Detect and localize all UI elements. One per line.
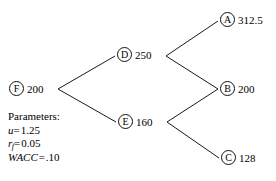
node-letter-f: F — [14, 84, 20, 94]
node-letter-c: C — [225, 153, 232, 163]
tree-node-d: D 250 — [117, 47, 152, 62]
parameters-block: Parameters: u= 1.25 rf= 0.05 WACC = .10 — [8, 110, 60, 164]
node-circle-f: F — [9, 81, 24, 96]
edge-d-to-b — [166, 56, 218, 89]
parameter-u: u= 1.25 — [8, 124, 60, 138]
node-letter-e: E — [122, 117, 128, 127]
node-circle-b: B — [220, 81, 235, 96]
node-circle-c: C — [221, 150, 236, 165]
parameter-u-value: 1.25 — [21, 124, 40, 136]
node-value-a: 312.5 — [238, 15, 263, 26]
edge-d-to-a — [166, 21, 218, 56]
node-value-b: 200 — [238, 84, 255, 95]
node-letter-b: B — [224, 84, 231, 94]
tree-node-a: A 312.5 — [220, 12, 263, 27]
tree-node-f: F 200 — [9, 81, 44, 96]
parameter-rf-operator: = — [14, 137, 20, 149]
parameter-rf: rf= 0.05 — [8, 137, 60, 151]
node-circle-a: A — [220, 12, 235, 27]
parameter-wacc: WACC = .10 — [8, 151, 60, 165]
node-value-e: 160 — [136, 117, 153, 128]
parameter-wacc-value: .10 — [46, 151, 60, 163]
tree-node-c: C 128 — [221, 150, 256, 165]
edge-f-to-d — [58, 56, 115, 89]
node-circle-e: E — [118, 114, 133, 129]
edge-e-to-c — [167, 122, 219, 158]
edge-f-to-e — [58, 89, 116, 122]
tree-node-e: E 160 — [118, 114, 153, 129]
parameter-u-operator: = — [14, 124, 20, 136]
parameter-rf-value: 0.05 — [21, 137, 40, 149]
parameter-wacc-operator: = — [39, 151, 45, 163]
parameter-wacc-symbol: WACC — [8, 151, 38, 163]
node-value-c: 128 — [239, 153, 256, 164]
node-letter-d: D — [121, 50, 128, 60]
edge-e-to-b — [167, 89, 218, 122]
tree-node-b: B 200 — [220, 81, 255, 96]
node-circle-d: D — [117, 47, 132, 62]
node-letter-a: A — [224, 15, 231, 25]
binomial-tree-figure: F 200 D 250 E 160 A 312.5 B 200 C 128 Pa… — [0, 0, 276, 181]
parameters-heading: Parameters: — [8, 110, 60, 124]
node-value-f: 200 — [27, 84, 44, 95]
node-value-d: 250 — [135, 50, 152, 61]
